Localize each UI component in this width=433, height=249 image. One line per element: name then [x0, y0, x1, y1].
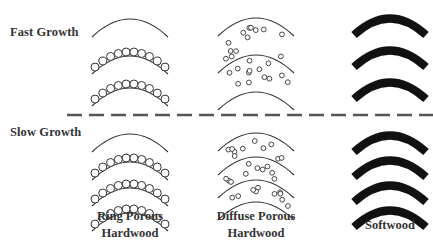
- pore-circle: [243, 171, 248, 176]
- pore-circle: [228, 49, 233, 54]
- column-label-softwood: Softwood: [350, 217, 430, 234]
- column-label-ring-porous-line2: Hardwood: [80, 225, 180, 242]
- pore-circle: [145, 159, 153, 167]
- pore-circle: [247, 68, 252, 73]
- pore-circle: [153, 57, 161, 65]
- pore-circle: [145, 85, 153, 93]
- pore-circle: [285, 80, 290, 85]
- pore-circle: [261, 146, 266, 151]
- pore-circle: [252, 139, 257, 144]
- pore-circle: [130, 180, 138, 188]
- pore-circle: [269, 142, 274, 147]
- pore-circle: [232, 154, 237, 159]
- pore-circle: [229, 180, 234, 185]
- pore-circle: [270, 170, 275, 175]
- pore-circle: [153, 89, 161, 97]
- pore-circle: [161, 95, 169, 103]
- pore-circle: [122, 180, 130, 188]
- diffuse-porous-fast-growth-panel: [218, 18, 294, 110]
- pore-circle: [145, 53, 153, 61]
- growth-ring-line: [92, 134, 168, 152]
- pore-circle: [272, 192, 277, 197]
- pore-circle: [91, 169, 99, 177]
- pore-circle: [280, 197, 285, 202]
- growth-ring-line: [92, 19, 168, 37]
- pore-circle: [114, 49, 122, 57]
- softwood-fast-growth-panel: [354, 19, 426, 100]
- pore-circle: [262, 75, 267, 80]
- pore-circle: [161, 169, 169, 177]
- column-label-ring-porous-line1: Ring Porous: [80, 208, 180, 225]
- pore-circle: [257, 67, 262, 72]
- pore-circle: [246, 161, 251, 166]
- latewood-band: [354, 83, 426, 100]
- pore-circle: [266, 61, 271, 66]
- pore-circle: [107, 53, 115, 61]
- pore-circle: [272, 176, 277, 181]
- pore-circle: [278, 191, 283, 196]
- pore-circle: [227, 70, 232, 75]
- pore-circle: [153, 163, 161, 171]
- pore-circle: [279, 156, 284, 161]
- ring-porous-fast-growth-panel: [91, 19, 169, 106]
- latewood-band: [354, 186, 426, 203]
- pore-circle: [255, 166, 260, 171]
- latewood-band: [354, 161, 426, 178]
- pore-circle: [224, 56, 229, 61]
- pore-circle: [130, 154, 138, 162]
- pore-circle: [236, 81, 241, 86]
- pore-circle: [99, 89, 107, 97]
- pore-circle: [91, 95, 99, 103]
- column-label-diffuse-porous-line2: Hardwood: [196, 225, 316, 242]
- pore-circle: [138, 49, 146, 57]
- pore-circle: [224, 176, 229, 181]
- column-label-diffuse-porous: Diffuse Porous Hardwood: [196, 208, 316, 242]
- pore-circle: [122, 80, 130, 88]
- pore-circle: [161, 195, 169, 203]
- pore-circle: [114, 181, 122, 189]
- pore-circle: [114, 81, 122, 89]
- pore-circle: [261, 27, 266, 32]
- pore-circle: [122, 48, 130, 56]
- pore-circle: [247, 80, 252, 85]
- pore-circle: [91, 63, 99, 71]
- growth-ring-line: [218, 92, 294, 110]
- pore-circle: [251, 188, 256, 193]
- pore-circle: [230, 147, 235, 152]
- pore-circle: [114, 155, 122, 163]
- pore-circle: [130, 80, 138, 88]
- pore-circle: [280, 73, 285, 78]
- pore-circle: [107, 185, 115, 193]
- pore-circle: [138, 181, 146, 189]
- pore-circle: [138, 81, 146, 89]
- pore-circle: [99, 163, 107, 171]
- pore-circle: [236, 194, 241, 199]
- pore-circle: [241, 30, 246, 35]
- pore-circle: [229, 54, 234, 59]
- column-label-diffuse-porous-line1: Diffuse Porous: [196, 208, 316, 225]
- pore-circle: [265, 164, 270, 169]
- pore-circle: [130, 48, 138, 56]
- pore-circle: [267, 76, 272, 81]
- pore-circle: [247, 58, 252, 63]
- pore-circle: [161, 63, 169, 71]
- pore-circle: [91, 195, 99, 203]
- pore-circle: [226, 40, 231, 45]
- pore-circle: [153, 189, 161, 197]
- latewood-band: [354, 51, 426, 68]
- pore-circle: [279, 54, 284, 59]
- column-label-ring-porous: Ring Porous Hardwood: [80, 208, 180, 242]
- pore-circle: [99, 189, 107, 197]
- pore-circle: [253, 28, 258, 33]
- pore-circle: [280, 32, 285, 37]
- pore-circle: [230, 195, 235, 200]
- softwood-slow-growth-panel: [354, 136, 426, 228]
- pore-circle: [245, 35, 250, 40]
- pore-circle: [235, 66, 240, 71]
- pore-circle: [107, 85, 115, 93]
- latewood-band: [354, 136, 426, 153]
- pore-circle: [145, 185, 153, 193]
- pore-circle: [260, 167, 265, 172]
- pore-circle: [107, 159, 115, 167]
- diffuse-porous-slow-growth-panel: [218, 133, 294, 220]
